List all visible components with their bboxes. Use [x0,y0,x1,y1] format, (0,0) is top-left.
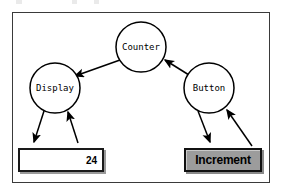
increment-button-label: Increment [195,153,251,167]
display-field-value: 24 [86,155,97,166]
edge-field-to-display [68,112,78,143]
diagram-canvas: Counter Display Button 24 Increment [0,0,281,191]
increment-button[interactable]: Increment [184,148,262,172]
edge-button-to-counter [165,60,189,75]
edge-increment-to-button [227,110,252,146]
edge-counter-to-display [75,60,120,76]
node-label-counter: Counter [122,42,160,52]
node-label-display: Display [36,83,74,93]
edge-button-to-increment [198,111,210,142]
edge-display-to-field [34,111,44,142]
node-label-button: Button [193,83,226,93]
display-field[interactable]: 24 [18,148,104,172]
